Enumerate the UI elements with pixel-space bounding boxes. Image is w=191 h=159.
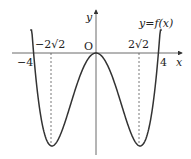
function-label: y=f(x) xyxy=(139,18,173,29)
y-label: y xyxy=(86,12,92,23)
func-f: f(x) xyxy=(154,17,173,30)
tick-pos2r2: 2√2 xyxy=(128,39,149,50)
tick-pos4: 4 xyxy=(160,57,167,68)
function-graph: y x O −4 4 −2√2 2√2 y=f(x) xyxy=(0,0,191,159)
x-label: x xyxy=(176,57,182,68)
tick-neg2r2: −2√2 xyxy=(35,39,65,50)
tick-neg4: −4 xyxy=(17,57,33,68)
origin-label: O xyxy=(84,41,93,52)
